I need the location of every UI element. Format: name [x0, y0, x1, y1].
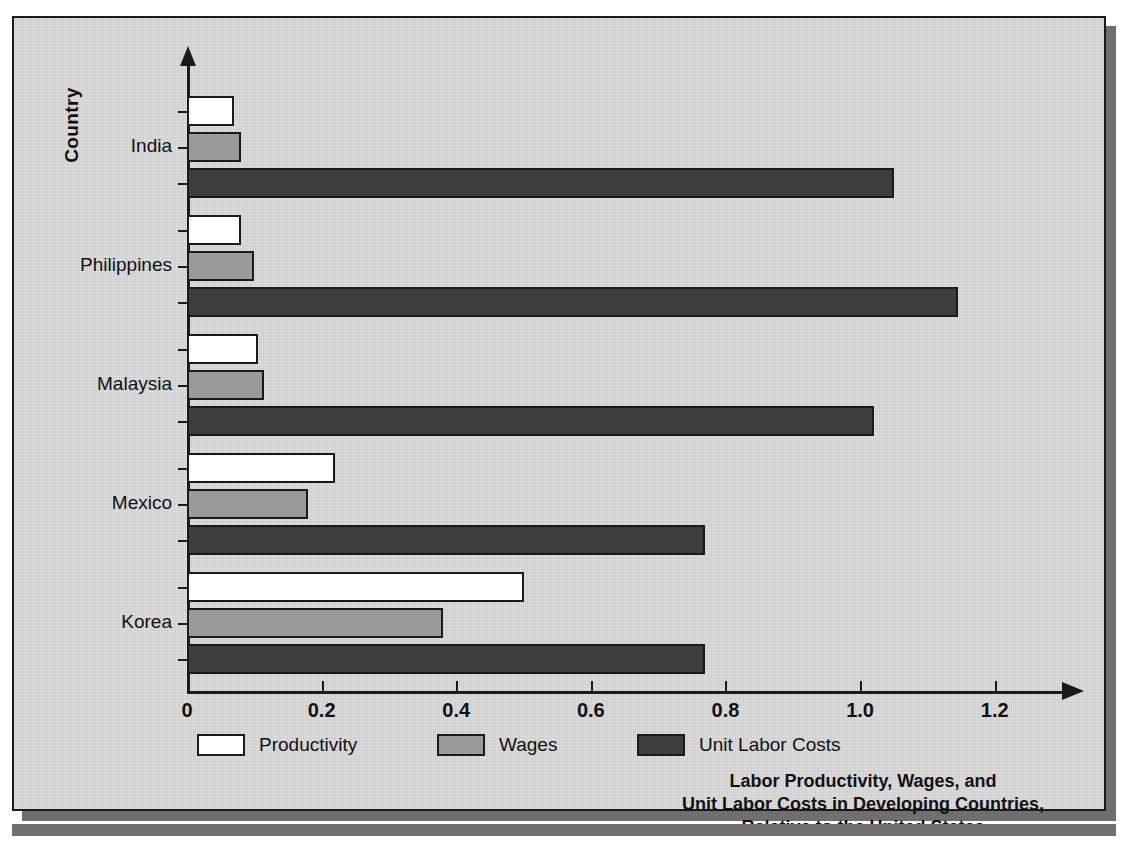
y-axis-tick: [178, 385, 189, 387]
bar-malaysia-productivity: [187, 334, 258, 364]
y-axis-arrow-icon: [180, 46, 196, 66]
bar-india-productivity: [187, 96, 234, 126]
bar-india-wages: [187, 132, 241, 162]
legend-swatch-icon: [637, 734, 685, 756]
bar-malaysia-wages: [187, 370, 264, 400]
plot-area: 00.20.40.60.81.01.2 IndiaPhilippinesMala…: [14, 18, 1108, 813]
category-label-india: India: [22, 135, 172, 157]
bar-philippines-unit-labor-costs: [187, 287, 958, 317]
y-axis-tick: [178, 421, 189, 423]
bar-philippines-productivity: [187, 215, 241, 245]
y-axis-tick: [178, 147, 189, 149]
x-axis-tick-label: 1.2: [965, 699, 1025, 722]
x-axis-tick-label: 0.8: [695, 699, 755, 722]
legend-item-unit-labor-costs[interactable]: Unit Labor Costs: [637, 734, 841, 756]
bar-korea-productivity: [187, 572, 524, 602]
bar-mexico-productivity: [187, 453, 335, 483]
x-axis-tick: [187, 681, 189, 692]
x-axis-line: [187, 691, 1067, 694]
y-axis-tick: [178, 540, 189, 542]
x-axis-tick-label: 0.6: [561, 699, 621, 722]
x-axis-tick-label: 1.0: [830, 699, 890, 722]
y-axis-tick: [178, 111, 189, 113]
bar-mexico-unit-labor-costs: [187, 525, 705, 555]
y-axis-tick: [178, 504, 189, 506]
legend-item-productivity[interactable]: Productivity: [197, 734, 357, 756]
caption-line-2: Unit Labor Costs in Developing Countries…: [648, 793, 1078, 816]
legend-label: Unit Labor Costs: [699, 734, 841, 756]
figure-container: Country 00.20.40.60.81.01.2 IndiaPhilipp…: [0, 0, 1126, 861]
y-axis-tick: [178, 468, 189, 470]
y-axis-tick: [178, 349, 189, 351]
bar-korea-unit-labor-costs: [187, 644, 705, 674]
y-axis-tick: [178, 230, 189, 232]
y-axis-tick: [178, 266, 189, 268]
legend-swatch-icon: [197, 734, 245, 756]
y-axis-tick: [178, 587, 189, 589]
category-label-philippines: Philippines: [22, 254, 172, 276]
category-label-mexico: Mexico: [22, 492, 172, 514]
bar-malaysia-unit-labor-costs: [187, 406, 874, 436]
y-axis-tick: [178, 183, 189, 185]
x-axis-tick: [995, 681, 997, 692]
y-axis-tick: [178, 623, 189, 625]
category-label-malaysia: Malaysia: [22, 373, 172, 395]
x-axis-tick: [322, 681, 324, 692]
legend-label: Wages: [499, 734, 557, 756]
x-axis-tick: [860, 681, 862, 692]
bottom-rule: [12, 824, 1116, 836]
bar-mexico-wages: [187, 489, 308, 519]
x-axis-tick-label: 0: [157, 699, 217, 722]
legend-item-wages[interactable]: Wages: [437, 734, 557, 756]
x-axis-arrow-icon: [1062, 682, 1084, 700]
x-axis-tick: [591, 681, 593, 692]
bar-korea-wages: [187, 608, 443, 638]
y-axis-tick: [178, 659, 189, 661]
bar-philippines-wages: [187, 251, 254, 281]
category-label-korea: Korea: [22, 611, 172, 633]
caption-line-1: Labor Productivity, Wages, and: [648, 770, 1078, 793]
bar-india-unit-labor-costs: [187, 168, 894, 198]
x-axis-tick: [725, 681, 727, 692]
legend-label: Productivity: [259, 734, 357, 756]
chart-panel: Country 00.20.40.60.81.01.2 IndiaPhilipp…: [12, 16, 1106, 811]
x-axis-tick-label: 0.2: [292, 699, 352, 722]
legend-swatch-icon: [437, 734, 485, 756]
x-axis-tick: [456, 681, 458, 692]
x-axis-tick-label: 0.4: [426, 699, 486, 722]
y-axis-tick: [178, 302, 189, 304]
